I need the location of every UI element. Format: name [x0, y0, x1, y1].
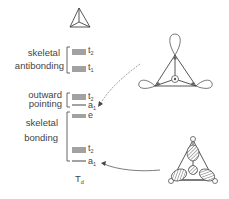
level-subscript: 1 [93, 105, 96, 111]
svg-text:t2: t2 [88, 45, 94, 56]
skeletal-bonding-orbital-icon [169, 137, 218, 184]
level-a1: a1 [72, 156, 96, 167]
svg-text:t2: t2 [88, 143, 94, 154]
group-skeletal-antibonding: skeletal antibonding t2 t1 [15, 45, 94, 73]
group-label-line: skeletal [26, 117, 58, 128]
group-label-line: antibonding [15, 60, 64, 71]
svg-text:a1: a1 [88, 156, 96, 167]
svg-text:t1: t1 [88, 62, 94, 73]
group-label-line: skeletal [28, 47, 60, 58]
level-subscript: 2 [91, 50, 94, 56]
group-label-line: bonding [24, 132, 58, 143]
level-symbol: e [88, 110, 93, 120]
level-subscript: 1 [93, 161, 96, 167]
arrow-to-bonding-a1 [101, 161, 160, 171]
arrow-to-outward-a1 [98, 64, 140, 107]
level-t2: t2 [72, 143, 94, 154]
mo-diagram: skeletal antibonding t2 t1 outward point… [0, 0, 229, 199]
level-t1: t1 [72, 62, 94, 73]
point-group-sub: d [81, 179, 84, 185]
tetrahedron-skeleton-icon [70, 8, 90, 27]
group-label-line: pointing [29, 98, 62, 109]
point-group-label: Td [75, 173, 84, 185]
level-e: e [72, 110, 93, 120]
level-t2: t2 [72, 45, 94, 56]
level-subscript: 2 [91, 148, 94, 154]
group-outward-pointing: outward pointing t2 a1 [28, 89, 96, 111]
outward-pointing-orbital-icon [139, 34, 213, 88]
group-skeletal-bonding: skeletal bonding e t2 a1 [24, 110, 96, 167]
level-subscript: 1 [91, 67, 94, 73]
